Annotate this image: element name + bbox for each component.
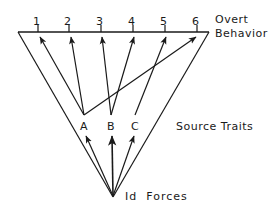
- behavior-label-5: 5: [160, 15, 168, 28]
- trait-label-A: A: [80, 120, 88, 133]
- trait-label-B: B: [107, 120, 115, 133]
- behavior-label-6: 6: [192, 15, 200, 28]
- diagram-canvas: 1 2 3 4 5 6 Overt Behavior A B C Source …: [0, 0, 276, 223]
- behavior-label-3: 3: [96, 15, 104, 28]
- trait-label-C: C: [131, 120, 139, 133]
- edge-B-to-3: [102, 37, 111, 115]
- edge-id-to-A: [86, 136, 113, 196]
- id-forces-caption: Id Forces: [125, 190, 188, 203]
- overt-behavior-caption-line1: Overt: [215, 13, 248, 26]
- edge-id-to-B: [112, 136, 113, 196]
- behavior-label-2: 2: [64, 15, 72, 28]
- behavior-label-1: 1: [33, 15, 41, 28]
- behavior-label-4: 4: [128, 15, 136, 28]
- edge-B-to-4: [111, 37, 134, 115]
- outer-edge-left: [18, 32, 113, 197]
- outer-edge-right: [113, 32, 209, 197]
- axis-ticks: [38, 25, 197, 32]
- overt-behavior-caption-line2: Behavior: [215, 27, 268, 40]
- source-traits-caption: Source Traits: [176, 120, 253, 133]
